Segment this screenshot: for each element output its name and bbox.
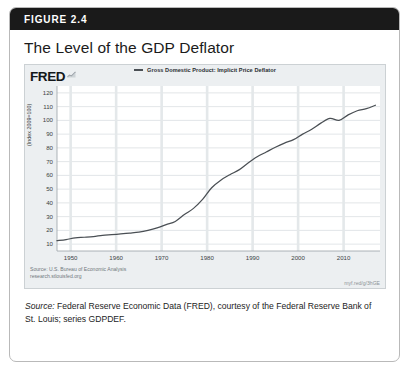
figure-header-bar: FIGURE 2.4 [10,8,399,30]
caption-source-label: Source: [25,301,55,311]
svg-text:50: 50 [46,185,53,192]
svg-text:1950: 1950 [64,254,78,261]
legend-label: Gross Domestic Product: Implicit Price D… [147,67,276,73]
fred-shortlink: myf.red/g/3hGE [344,280,380,286]
fred-logo: FRED [30,64,76,83]
svg-text:1960: 1960 [109,254,123,261]
fred-topbar: FRED Gross Domestic Product: Implicit Pr… [25,65,385,82]
svg-text:1970: 1970 [155,254,169,261]
svg-text:60: 60 [46,171,53,178]
svg-text:20: 20 [46,226,53,233]
caption-body: Federal Reserve Economic Data (FRED), co… [25,301,371,324]
plot-area: (Index 2009=100) 10203040506070809010011… [25,82,385,267]
fred-footer: Source: U.S. Bureau of Economic Analysis… [25,266,385,286]
figure-title: The Level of the GDP Deflator [10,30,399,64]
svg-text:30: 30 [46,213,53,220]
svg-text:100: 100 [43,116,54,123]
gdp-deflator-line-chart: 1020304050607080901001101201950196019701… [25,82,388,267]
svg-text:1990: 1990 [246,254,260,261]
svg-text:70: 70 [46,158,53,165]
svg-text:10: 10 [46,240,53,247]
fred-source-note: Source: U.S. Bureau of Economic Analysis [30,266,380,273]
figure-page: FIGURE 2.4 The Level of the GDP Deflator… [0,0,409,369]
svg-text:1980: 1980 [200,254,214,261]
figure-number-label: FIGURE 2.4 [24,14,87,25]
svg-text:40: 40 [46,199,53,206]
y-axis-label: (Index 2009=100) [26,104,32,146]
svg-text:2000: 2000 [291,254,305,261]
legend-swatch [134,69,143,71]
svg-text:80: 80 [46,144,53,151]
figure-caption: Source: Federal Reserve Economic Data (F… [25,300,383,325]
svg-text:90: 90 [46,130,53,137]
figure-card: FIGURE 2.4 The Level of the GDP Deflator… [9,7,400,362]
fred-url: research.stlouisfed.org [30,273,380,280]
svg-text:120: 120 [43,89,54,96]
svg-text:2010: 2010 [337,254,351,261]
svg-text:110: 110 [43,103,53,110]
sparkline-icon [67,64,76,82]
chart-legend: Gross Domestic Product: Implicit Price D… [25,67,385,73]
fred-chart-panel: FRED Gross Domestic Product: Implicit Pr… [24,64,386,289]
